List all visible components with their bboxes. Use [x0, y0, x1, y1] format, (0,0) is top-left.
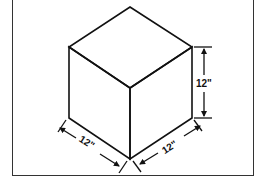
- left-arrow-b: [100, 154, 119, 166]
- height-label: 12": [196, 78, 212, 89]
- extension-line-right-a: [133, 161, 141, 172]
- right-arrow-a: [140, 153, 158, 164]
- cube-right-face: [130, 47, 192, 159]
- left-arrow-a: [60, 128, 76, 138]
- cube-diagram: 12" 12" 12": [0, 0, 259, 182]
- cube-top-face: [69, 7, 192, 88]
- extension-line-left-b: [119, 161, 127, 173]
- left-depth-label: 12": [77, 133, 97, 151]
- extension-line-left-a: [58, 120, 66, 132]
- right-width-label: 12": [160, 138, 180, 156]
- right-arrow-b: [184, 126, 200, 136]
